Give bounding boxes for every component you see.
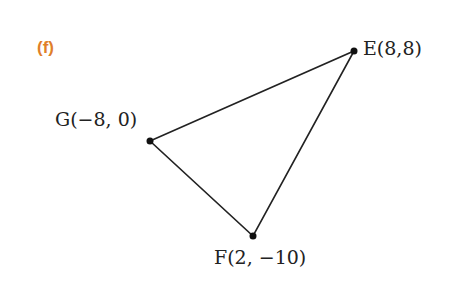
- triangle-efg: [150, 51, 354, 236]
- point-e: [351, 48, 358, 55]
- point-g-label: G(−8, 0): [55, 108, 137, 130]
- point-e-label: E(8,8): [363, 37, 422, 59]
- point-f-label: F(2, −10): [214, 246, 306, 268]
- point-f: [250, 233, 257, 240]
- point-g: [147, 138, 154, 145]
